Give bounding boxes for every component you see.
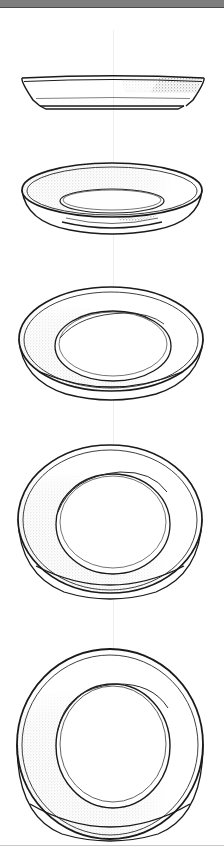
figure-3-medium-angle-view [0, 280, 224, 402]
bottom-divider-rule [0, 845, 224, 846]
figure-5-inner-well [56, 684, 170, 808]
figure-5-top-down-view [0, 646, 224, 846]
figure-2-inner-well [60, 189, 164, 213]
figure-2-low-angle-view [0, 156, 224, 240]
drawing-page: Plate drawing — five viewing angles Plat… [0, 0, 224, 854]
figure-1-body-left [22, 78, 40, 106]
figure-4-steep-angle-view [0, 440, 224, 602]
figure-1-profile-view [0, 60, 224, 122]
figure-1-well-floor-line [36, 98, 190, 99]
top-gray-bar [0, 0, 224, 8]
figure-3-inner-well [55, 311, 171, 381]
